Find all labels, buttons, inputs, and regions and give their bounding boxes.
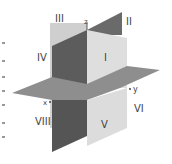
x-axis-point	[49, 101, 51, 103]
axis-label-x: x	[43, 99, 47, 107]
left-edge-artifact	[2, 122, 5, 124]
octant-label-V: V	[101, 119, 108, 130]
octant-label-III: III	[55, 13, 64, 24]
octant-label-IV: IV	[37, 52, 47, 63]
octant-label-VIII: VIII	[35, 116, 51, 127]
left-edge-artifact	[2, 104, 5, 106]
axis-label-z: z	[84, 18, 88, 26]
y-axis-point	[129, 88, 131, 90]
axis-label-y: y	[133, 85, 138, 94]
octant-label-VI: VI	[134, 103, 144, 114]
left-edge-artifact	[2, 60, 5, 62]
octant-label-II: II	[126, 16, 132, 27]
left-edge-artifact	[2, 136, 5, 138]
octant-label-I: I	[104, 52, 107, 63]
left-edge-artifact	[2, 90, 5, 92]
left-edge-artifact	[2, 42, 5, 44]
left-edge-artifact	[2, 76, 5, 78]
dark-plane-lower	[52, 100, 87, 152]
octant-diagram: z y x III II IV I VI VIII V	[0, 0, 172, 164]
